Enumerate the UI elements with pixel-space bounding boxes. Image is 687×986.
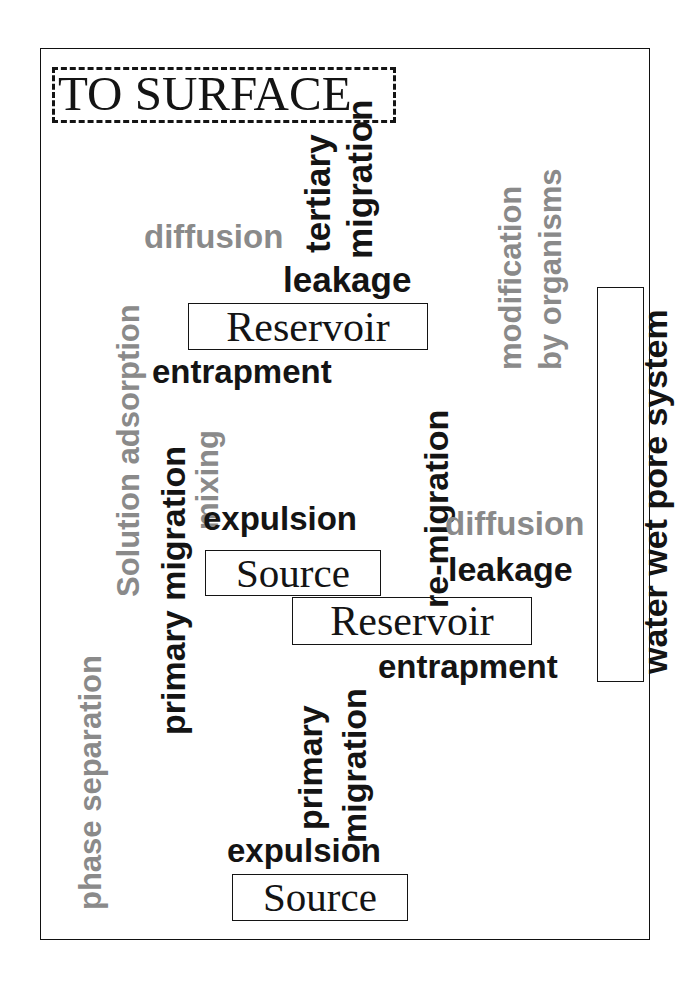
to-surface-label: TO SURFACE [58,69,352,118]
tertiary-label: tertiary [300,134,335,253]
expulsion-upper-label: expulsion [203,502,357,535]
diffusion-top-label: diffusion [144,220,283,253]
leakage-top-label: leakage [283,262,411,297]
diffusion-lower-label: diffusion [445,507,584,540]
reservoir-lower-label: Reservoir [330,600,493,642]
water-wet-pore-system-box: water wet pore system [597,287,644,682]
source-lower-box: Source [232,874,408,921]
reservoir-top-label: Reservoir [226,306,389,348]
source-upper-label: Source [236,553,350,594]
water-wet-pore-system-label: water wet pore system [636,309,675,674]
reservoir-lower-box: Reservoir [292,597,532,645]
reservoir-top-box: Reservoir [188,303,428,350]
migration-lower-label: migration [337,688,371,843]
phase-separation-label: phase separation [75,655,106,910]
by-organisms-label: by organisms [535,168,566,370]
modification-label: modification [495,186,526,370]
migration-tertiary-label: migration [342,100,377,259]
primary-migration-upper-label: primary migration [156,446,190,735]
primary-lower-label: primary [293,705,327,830]
solution-adsorption-label: Solution adsorption [113,304,144,597]
entrapment-top-label: entrapment [152,355,332,388]
source-upper-box: Source [205,550,381,596]
leakage-lower-label: leakage [448,552,573,586]
expulsion-lower-label: expulsion [227,834,381,867]
diagram-canvas: TO SURFACE tertiary migration modificati… [0,0,687,986]
entrapment-lower-label: entrapment [378,650,558,683]
source-lower-label: Source [263,877,377,918]
